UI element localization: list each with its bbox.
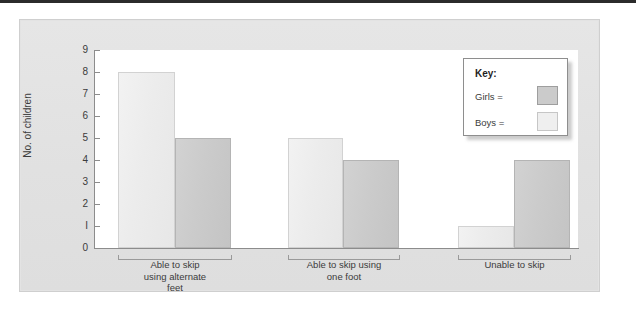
bar-girls-1 <box>343 160 399 248</box>
category-label-line: feet <box>98 282 252 294</box>
y-tick-label-3: 3 <box>66 177 88 187</box>
category-label-line: one foot <box>268 271 420 283</box>
page-top-rule <box>0 0 636 3</box>
category-label-line: Unable to skip <box>438 259 591 271</box>
category-label-1: Able to skip usingone foot <box>268 259 420 282</box>
y-tick-label-8: 8 <box>66 67 88 77</box>
legend-entry-girls: Girls = <box>475 86 560 106</box>
legend-swatch-boys <box>537 112 558 131</box>
y-axis-tick-labels: 0I23456789 <box>62 0 88 314</box>
y-tick-label-0: 0 <box>66 243 88 253</box>
category-label-line: Able to skip <box>98 259 252 271</box>
y-axis-title: No. of children <box>22 71 33 181</box>
category-label-line: using alternate <box>98 271 252 283</box>
y-tick-label-7: 7 <box>66 89 88 99</box>
bar-girls-2 <box>514 160 570 248</box>
y-tick-label-2: 2 <box>66 199 88 209</box>
category-label-0: Able to skipusing alternatefeet <box>98 259 252 294</box>
legend-swatch-girls <box>537 86 558 105</box>
legend-label-boys: Boys = <box>475 117 504 128</box>
y-tick-label-6: 6 <box>66 111 88 121</box>
y-tick-label-1: I <box>66 221 88 231</box>
y-tick-label-5: 5 <box>66 133 88 143</box>
y-tick-label-9: 9 <box>66 45 88 55</box>
category-label-line: Able to skip using <box>268 259 420 271</box>
legend-box: Key: Girls =Boys = <box>463 58 568 136</box>
x-axis-line <box>94 248 579 249</box>
legend-title: Key: <box>475 68 497 79</box>
bar-girls-0 <box>175 138 231 248</box>
bar-boys-0 <box>118 72 175 248</box>
legend-entry-boys: Boys = <box>475 112 560 132</box>
category-label-2: Unable to skip <box>438 259 591 271</box>
legend-label-girls: Girls = <box>475 91 503 102</box>
bar-boys-1 <box>288 138 343 248</box>
y-tick-label-4: 4 <box>66 155 88 165</box>
bar-boys-2 <box>458 226 514 248</box>
